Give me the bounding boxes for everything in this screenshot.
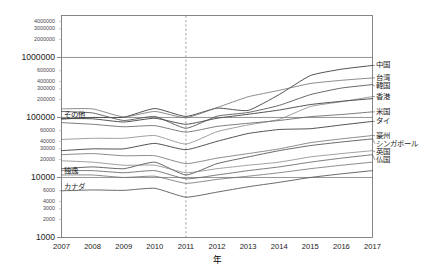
x-tick-label: 2012: [209, 242, 226, 251]
series-label: 米国: [376, 107, 390, 116]
series-line: [62, 162, 373, 183]
series-label: 香港: [376, 92, 391, 101]
y-tick-label: 30000: [40, 145, 55, 151]
series-line: [62, 112, 373, 132]
y-tick-label: 3000000: [34, 25, 55, 31]
y-tick-label: 200000: [37, 96, 55, 102]
series-label: タイ: [376, 116, 390, 125]
x-axis-title: 年: [213, 254, 222, 265]
x-tick-label: 2014: [271, 242, 288, 251]
series-line: [62, 136, 373, 164]
series-line: [62, 65, 373, 119]
y-tick-label: 6000: [43, 187, 55, 193]
y-tick-label: 10000: [31, 172, 55, 182]
y-tick-label: 1000000: [22, 52, 56, 62]
series-line: [62, 99, 373, 125]
y-tick-label: 4000000: [34, 18, 55, 24]
y-tick-label: 100000: [26, 112, 55, 122]
x-tick-label: 2017: [364, 242, 381, 251]
y-axis-ticks: [57, 21, 62, 237]
line-chart: 4000000300000020000001000000600000400000…: [0, 0, 423, 278]
y-tick-label: 2000000: [34, 36, 55, 42]
x-tick-label: 2016: [333, 242, 350, 251]
series-label: 仏国: [376, 155, 390, 164]
x-tick-label: 2009: [115, 242, 132, 251]
x-tick-label: 2011: [178, 242, 194, 251]
y-tick-label: 3000: [43, 205, 55, 211]
y-tick-label: 600000: [37, 67, 55, 73]
x-tick-label: 2013: [240, 242, 257, 251]
y-tick-label: 1000: [36, 232, 55, 242]
series-label: 独逸: [64, 166, 79, 175]
y-axis-labels: 4000000300000020000001000000600000400000…: [22, 18, 56, 242]
x-tick-label: 2015: [302, 242, 319, 251]
y-tick-label: 60000: [40, 127, 55, 133]
chart-container: 4000000300000020000001000000600000400000…: [0, 0, 423, 278]
series-label: 韓国: [376, 81, 390, 90]
series-label: カナダ: [64, 182, 86, 191]
series-line: [62, 85, 373, 129]
y-tick-label: 300000: [37, 85, 55, 91]
y-tick-label: 4000: [43, 198, 55, 204]
series-label: 中国: [376, 60, 390, 69]
y-tick-label: 400000: [37, 78, 55, 84]
y-tick-label: 40000: [40, 138, 55, 144]
x-tick-label: 2010: [146, 242, 163, 251]
x-tick-label: 2008: [84, 242, 101, 251]
y-tick-label: 2000: [43, 216, 55, 222]
series-line: [62, 151, 373, 173]
x-tick-label: 2007: [53, 242, 70, 251]
x-axis-labels: 2007200820092010201120122013201420152016…: [53, 242, 381, 251]
series-label: その他: [64, 110, 86, 119]
series-line: [62, 139, 373, 175]
y-tick-label: 20000: [40, 156, 55, 162]
series-line: [62, 78, 373, 118]
